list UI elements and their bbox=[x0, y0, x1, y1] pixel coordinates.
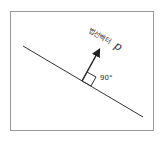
vector-label: 법선벡터 bbox=[87, 26, 112, 46]
right-angle-marker bbox=[82, 72, 96, 86]
angle-label: 90° bbox=[100, 74, 112, 82]
normal-vector-diagram: 90° 법선벡터 p bbox=[0, 0, 168, 147]
vector-symbol: p bbox=[111, 39, 124, 54]
